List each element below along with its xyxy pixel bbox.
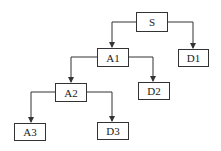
node-label: A2 bbox=[64, 87, 77, 99]
node-label: D2 bbox=[147, 85, 160, 97]
node-label: D3 bbox=[106, 125, 119, 137]
edge-s-a1 bbox=[112, 22, 136, 47]
node-a2: A2 bbox=[55, 83, 87, 102]
edge-a2-d3 bbox=[87, 92, 112, 121]
node-label: D1 bbox=[187, 52, 200, 64]
edge-a1-a2 bbox=[71, 57, 97, 82]
node-d2: D2 bbox=[138, 82, 170, 100]
node-label: A3 bbox=[23, 126, 36, 138]
edge-a1-d2 bbox=[129, 57, 153, 81]
node-a1: A1 bbox=[97, 48, 129, 67]
node-d3: D3 bbox=[97, 122, 129, 140]
edge-a2-a3 bbox=[31, 92, 55, 122]
node-d1: D1 bbox=[178, 49, 209, 67]
node-label: S bbox=[149, 16, 155, 28]
edge-s-d1 bbox=[168, 22, 193, 48]
node-a3: A3 bbox=[14, 123, 46, 141]
node-s: S bbox=[136, 12, 168, 32]
node-label: A1 bbox=[106, 52, 119, 64]
